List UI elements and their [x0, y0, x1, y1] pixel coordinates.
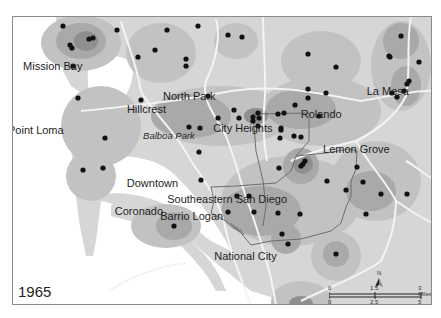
data-point: [378, 191, 383, 196]
data-point: [114, 27, 119, 32]
north-arrow-icon: [329, 276, 429, 304]
data-point: [333, 251, 338, 256]
data-point: [275, 210, 280, 215]
place-label-barrio-logan: Barrio Logan: [160, 211, 223, 222]
scale-bar: N 0 1.5 3 Miles 0 2.5 5 Kilometers: [329, 276, 429, 304]
data-point: [69, 45, 74, 50]
data-point: [186, 124, 191, 129]
data-point: [302, 158, 307, 163]
data-point: [256, 115, 261, 120]
place-label-la-mesa: La Mesa: [367, 86, 409, 97]
data-point: [305, 86, 310, 91]
data-point: [135, 54, 140, 59]
place-label-downtown: Downtown: [127, 178, 178, 189]
data-point: [354, 164, 359, 169]
data-point: [360, 179, 365, 184]
data-point: [225, 32, 230, 37]
place-label-national-city: National City: [214, 251, 276, 262]
data-point: [298, 163, 303, 168]
data-point: [343, 187, 348, 192]
miles-tick-1: 1.5: [370, 285, 378, 291]
data-point: [183, 63, 188, 68]
data-point: [298, 134, 303, 139]
data-point: [387, 54, 392, 59]
data-point: [255, 110, 260, 115]
km-tick-1: 2.5: [370, 299, 378, 305]
data-point: [195, 23, 200, 28]
data-point: [275, 111, 280, 116]
data-point: [231, 107, 236, 112]
km-tick-2: 5 Kilometers: [418, 299, 432, 305]
data-point: [60, 23, 65, 28]
data-point: [75, 95, 80, 100]
data-point: [305, 95, 310, 100]
data-point: [279, 231, 284, 236]
place-label-north-park: North Park: [163, 91, 216, 102]
data-point: [102, 135, 107, 140]
data-point: [138, 97, 143, 102]
data-point: [100, 165, 105, 170]
data-point: [281, 110, 286, 115]
data-point: [90, 35, 95, 40]
data-point: [291, 133, 296, 138]
data-point: [197, 125, 202, 130]
data-point: [363, 211, 368, 216]
data-point: [297, 211, 302, 216]
year-label: 1965: [18, 283, 51, 300]
data-point: [152, 47, 157, 52]
data-point: [239, 34, 244, 39]
place-label-hillcrest: Hillcrest: [127, 104, 166, 115]
data-point: [236, 115, 241, 120]
data-point: [80, 167, 85, 172]
data-point: [196, 149, 201, 154]
data-point: [398, 33, 403, 38]
km-tick-0: 0: [328, 299, 331, 305]
place-label-southeastern-san-diego: Southeastern San Diego: [167, 194, 287, 205]
data-point: [251, 209, 256, 214]
miles-tick-2: 3 Miles: [418, 285, 432, 297]
place-label-coronado: Coronado: [115, 206, 163, 217]
data-point: [171, 223, 176, 228]
data-point: [277, 135, 282, 140]
data-point: [323, 90, 328, 95]
data-point: [276, 165, 281, 170]
miles-tick-0: 0: [328, 285, 331, 291]
place-label-lemon-grove: Lemon Grove: [323, 144, 390, 155]
place-label-rolando: Rolando: [301, 109, 342, 120]
place-label-balboa-park: Balboa Park: [143, 131, 195, 141]
place-label-mission-bay: Mission Bay: [23, 61, 82, 72]
data-point: [285, 241, 290, 246]
data-point: [305, 51, 310, 56]
data-point: [183, 56, 188, 61]
map-frame: Mission BayPoint LomaHillcrestBalboa Par…: [12, 16, 432, 305]
data-point: [416, 59, 421, 64]
data-point: [198, 177, 203, 182]
data-point: [225, 209, 230, 214]
place-label-point-loma: Point Loma: [12, 125, 64, 136]
data-point: [215, 115, 220, 120]
data-point: [404, 191, 409, 196]
data-point: [292, 102, 297, 107]
data-point: [333, 64, 338, 69]
place-label-city-heights: City Heights: [213, 123, 272, 134]
data-point: [164, 27, 169, 32]
north-label: N: [377, 270, 381, 276]
data-point: [324, 178, 329, 183]
data-point: [278, 125, 283, 130]
